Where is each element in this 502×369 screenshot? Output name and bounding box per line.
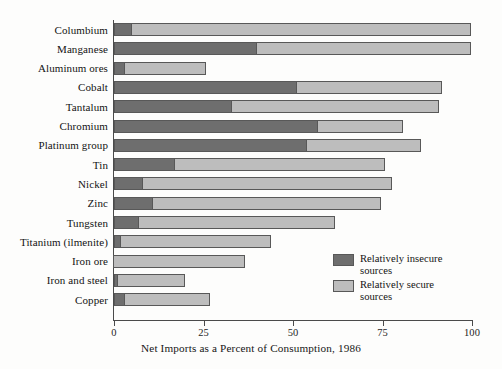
x-tick-label: 100 [464,327,480,338]
category-label: Aluminum ores [38,62,108,74]
x-tick-label: 50 [288,327,299,338]
bar-segment-secure [296,81,443,94]
x-tick-label: 25 [198,327,209,338]
bar-segment-insecure [114,177,143,190]
bar-segment-secure [256,42,471,55]
x-tick-mark [472,321,473,326]
legend-label: Relatively insecure sources [360,253,442,276]
bar-segment-insecure [114,120,318,133]
bar-segment-secure [138,216,335,229]
category-label: Columbium [55,23,108,35]
bar-row: Cobalt [114,81,472,94]
x-axis-title: Net Imports as a Percent of Consumption,… [0,342,502,354]
legend-swatch-secure [333,280,354,292]
category-label: Tungsten [67,216,108,228]
bar-row: Zinc [114,197,472,210]
bar-segment-secure [317,120,403,133]
category-label: Zinc [87,197,108,209]
bar-row: Platinum group [114,139,472,152]
legend-swatch-insecure [333,254,354,266]
category-label: Chromium [60,120,108,132]
chart-legend: Relatively insecure sourcesRelatively se… [333,253,442,305]
bar-segment-insecure [114,42,257,55]
bar-row: Titanium (ilmenite) [114,235,472,248]
bar-row: Nickel [114,177,472,190]
category-label: Cobalt [78,81,108,93]
x-tick-mark [114,321,115,326]
bar-segment-secure [131,23,471,36]
bar-row: Columbium [114,23,472,36]
x-tick-label: 0 [111,327,116,338]
bar-row: Tin [114,158,472,171]
category-label: Tin [93,158,108,170]
bar-segment-insecure [114,100,232,113]
category-label: Tantalum [66,100,108,112]
category-label: Iron and steel [47,274,108,286]
legend-entry: Relatively insecure sources [333,253,442,276]
bar-segment-insecure [114,197,153,210]
bar-row: Chromium [114,120,472,133]
legend-entry: Relatively secure sources [333,279,442,302]
bar-segment-insecure [114,158,175,171]
chart-figure: ColumbiumManganeseAluminum oresCobaltTan… [0,0,502,369]
category-label: Nickel [78,178,108,190]
bar-segment-insecure [114,139,307,152]
bar-segment-secure [117,274,185,287]
category-label: Iron ore [72,255,108,267]
legend-label: Relatively secure sources [360,279,434,302]
category-label: Manganese [57,43,108,55]
x-tick-mark [293,321,294,326]
bar-segment-secure [306,139,421,152]
bar-row: Manganese [114,42,472,55]
bar-row: Tungsten [114,216,472,229]
bar-row: Tantalum [114,100,472,113]
category-label: Titanium (ilmenite) [20,236,108,248]
bar-segment-secure [124,293,210,306]
bar-row: Aluminum ores [114,62,472,75]
bar-segment-secure [113,255,245,268]
bar-segment-secure [231,100,439,113]
bar-segment-insecure [114,216,139,229]
x-tick-mark [204,321,205,326]
x-tick-label: 75 [377,327,388,338]
bar-segment-secure [152,197,381,210]
bar-segment-secure [142,177,393,190]
category-label: Platinum group [38,139,108,151]
bar-segment-insecure [114,23,132,36]
bar-segment-secure [174,158,385,171]
bar-segment-insecure [114,81,297,94]
bar-segment-secure [120,235,270,248]
bar-segment-secure [124,62,206,75]
x-tick-mark [383,321,384,326]
category-label: Copper [75,293,108,305]
